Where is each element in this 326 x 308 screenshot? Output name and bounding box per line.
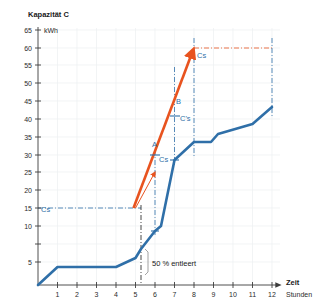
chart-title: Kapazität C [28, 10, 69, 19]
y-tick-55: 55 [24, 62, 32, 69]
x-axis-unit: Stunden [286, 291, 312, 298]
x-tick-10: 10 [229, 291, 237, 298]
capacity-time-chart: 65 60 55 50 45 40 35 30 25 20 15 10 5 1 … [0, 0, 326, 308]
x-axis-title: Zeit [286, 278, 300, 287]
y-tick-30: 30 [24, 152, 32, 159]
annotation-cs-prime: C's [180, 114, 191, 123]
annotation-point-a: A [152, 140, 157, 149]
y-axis-unit: kWh [44, 27, 58, 34]
y-tick-10: 10 [24, 223, 32, 230]
x-tick-9: 9 [212, 291, 216, 298]
x-tick-8: 8 [192, 291, 196, 298]
x-tick-1: 1 [56, 291, 60, 298]
annotation-discharge: 50 % entleert [152, 259, 197, 268]
chart-canvas: 65 60 55 50 45 40 35 30 25 20 15 10 5 1 … [0, 0, 326, 308]
y-tick-60: 60 [24, 45, 32, 52]
x-tick-2: 2 [75, 291, 79, 298]
y-tick-65: 65 [24, 27, 32, 34]
annotation-cs-left: Cs [41, 205, 50, 214]
point-markers [150, 116, 180, 231]
x-tick-4: 4 [114, 291, 118, 298]
y-tick-40: 40 [24, 116, 32, 123]
charge-arrow-large [134, 53, 193, 208]
y-tick-20: 20 [24, 187, 32, 194]
x-tick-5: 5 [134, 291, 138, 298]
y-tick-5: 5 [28, 259, 32, 266]
x-tick-7: 7 [173, 291, 177, 298]
y-tick-50: 50 [24, 80, 32, 87]
y-tick-15: 15 [24, 205, 32, 212]
annotation-cs-top: Cs [197, 51, 206, 60]
y-tick-35: 35 [24, 134, 32, 141]
axes [35, 27, 278, 288]
annotation-point-b: B [176, 97, 181, 106]
x-tick-11: 11 [249, 291, 256, 298]
annotation-cs-lower: Cs [159, 155, 168, 164]
y-tick-25: 25 [24, 169, 32, 176]
x-tick-6: 6 [153, 291, 157, 298]
y-tick-45: 45 [24, 98, 32, 105]
x-tick-3: 3 [95, 291, 99, 298]
x-tick-12: 12 [268, 291, 276, 298]
